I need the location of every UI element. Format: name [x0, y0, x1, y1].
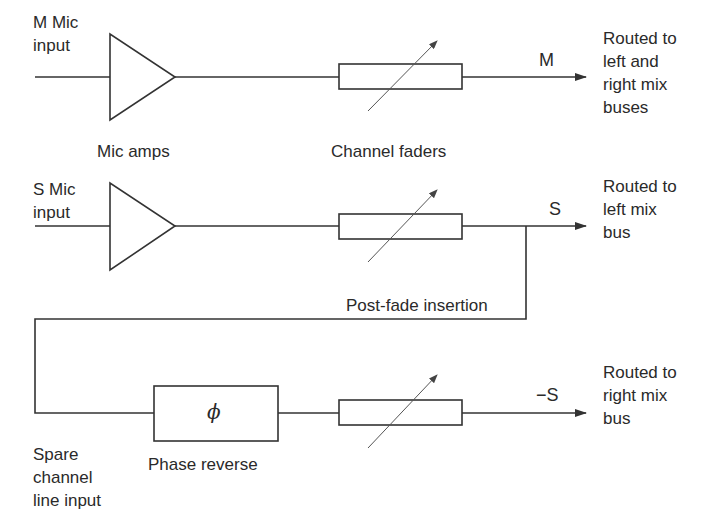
m-mic-amp-icon	[110, 34, 175, 120]
s-channel-fader-icon[interactable]	[339, 214, 462, 239]
post-fade-insertion-caption: Post-fade insertion	[346, 294, 488, 317]
s-mic-amp-icon	[110, 183, 175, 270]
phase-symbol-icon: ϕ	[207, 400, 221, 424]
m-channel	[35, 34, 586, 120]
post-fade-insertion-wire	[35, 226, 526, 413]
m-signal-label: M	[539, 50, 554, 70]
spare-output-label: Routed to right mix bus	[603, 361, 677, 430]
m-channel-fader-icon[interactable]	[339, 64, 462, 89]
spare-channel-input-label: Spare channel line input	[33, 443, 101, 512]
s-signal-label: S	[549, 199, 561, 219]
channel-faders-caption: Channel faders	[331, 140, 446, 163]
phase-reverse-caption: Phase reverse	[148, 453, 258, 476]
m-output-label: Routed to left and right mix buses	[603, 27, 677, 119]
m-mic-input-label: M Mic input	[33, 11, 78, 57]
s-output-label: Routed to left mix bus	[603, 175, 677, 244]
s-mic-input-label: S Mic input	[33, 178, 76, 224]
spare-signal-label: −S	[536, 385, 559, 405]
spare-channel-fader-icon[interactable]	[339, 400, 462, 425]
mic-amps-caption: Mic amps	[97, 140, 170, 163]
s-channel	[35, 183, 586, 270]
